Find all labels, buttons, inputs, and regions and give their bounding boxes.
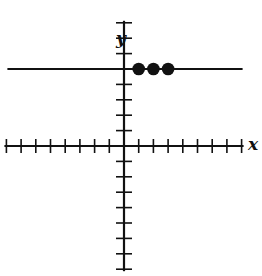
data-points — [132, 63, 174, 76]
y-axis-label: y — [116, 28, 126, 48]
coordinate-plane — [0, 0, 262, 276]
point-dot — [147, 63, 160, 76]
point-dot — [132, 63, 145, 76]
x-axis-label: x — [248, 134, 258, 154]
axes — [4, 21, 243, 271]
point-dot — [162, 63, 175, 76]
